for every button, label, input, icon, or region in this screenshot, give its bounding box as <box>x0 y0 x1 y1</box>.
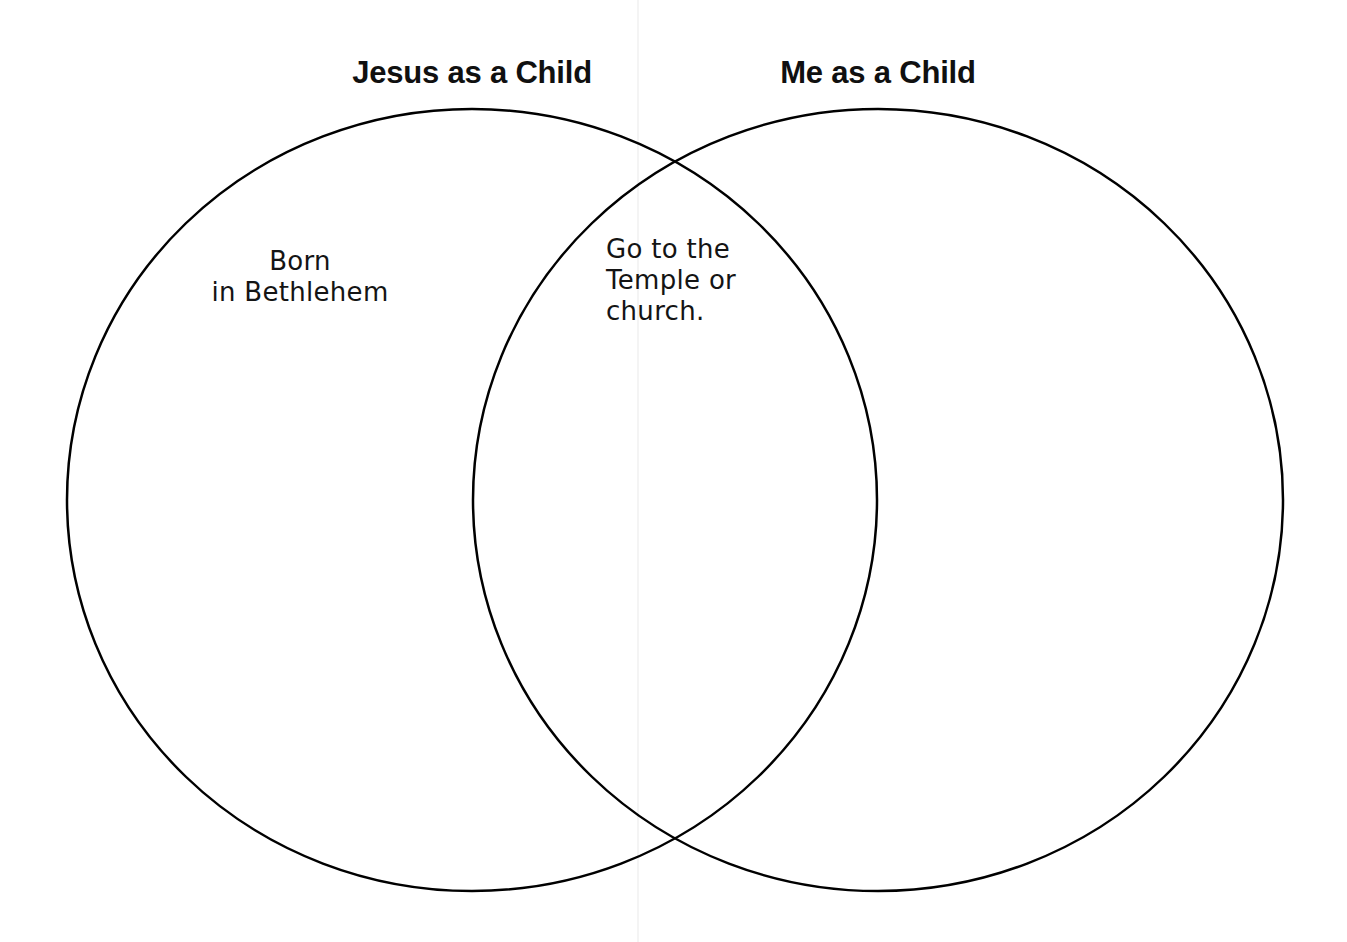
venn-diagram-canvas <box>0 0 1347 942</box>
venn-diagram-worksheet: Jesus as a Child Me as a Child Born in B… <box>0 0 1347 942</box>
venn-note-left-only: Born in Bethlehem <box>152 246 448 308</box>
venn-note-intersection: Go to the Temple or church. <box>606 234 776 327</box>
venn-label-right-set: Me as a Child <box>532 57 1224 88</box>
